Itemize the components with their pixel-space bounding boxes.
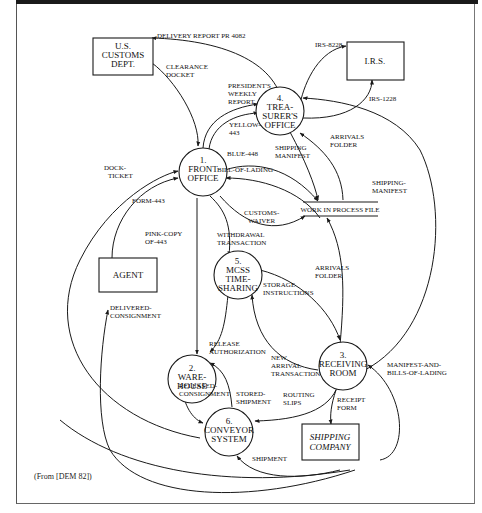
flow-label: CLEARANCE <box>166 63 208 71</box>
flow-label: ROUTING <box>283 391 315 399</box>
flow-label: DOCKET <box>166 71 195 79</box>
process-label-line: OFFICE <box>264 120 296 130</box>
flow-label: SHIPPING <box>275 144 307 152</box>
flow-label: DELIVERED- <box>110 304 152 312</box>
data-store-label: WORK IN PROCESS FILE <box>300 206 379 214</box>
flow-label: PRESIDENT'S <box>228 82 271 90</box>
edge-delivered-consignment <box>100 310 355 493</box>
flow-label: AUTHORIZATION <box>209 348 266 356</box>
flow-label: MANIFEST <box>275 152 311 160</box>
flow-label: WAIVER <box>248 217 276 225</box>
flow-label: STORAGE <box>263 281 295 289</box>
entity-label-line: DEPT. <box>111 59 135 69</box>
process-receiving-room[interactable]: 3. RECEIVING ROOM <box>319 342 368 390</box>
process-label-line: OFFICE <box>187 173 219 183</box>
edge-withdrawal-transaction <box>210 196 230 256</box>
flow-label: REPORT <box>228 98 255 106</box>
entity-label-line: AGENT <box>113 270 144 280</box>
flow-label: BILL-OF-LADING <box>217 166 273 174</box>
flow-label: BILLS-OF-LADING <box>387 369 447 377</box>
flow-label: SHIPPING- <box>372 179 407 187</box>
flow-label: TRANSACTION <box>217 239 266 247</box>
source-note: (From [DEM 82]) <box>34 472 92 481</box>
flow-label: FOLDER <box>330 141 358 149</box>
flow-label: BLUE-448 <box>227 150 259 158</box>
edge-arrivals-folder-bottom <box>327 218 343 345</box>
flow-label: INSTRUCTIONS <box>263 289 314 297</box>
flow-label: DELIVERY REPORT PR 4082 <box>157 32 246 40</box>
flow-label: SLIPS <box>283 399 301 407</box>
data-store-wip[interactable]: WORK IN PROCESS FILE <box>300 202 379 216</box>
flow-label: 443 <box>229 129 240 137</box>
flow-label: OF-443 <box>145 238 167 246</box>
entity-shipping-company[interactable]: SHIPPING COMPANY <box>302 424 359 460</box>
entity-label-line: COMPANY <box>310 442 352 452</box>
edge-shipping-manifest <box>290 132 318 200</box>
entity-agent[interactable]: AGENT <box>99 258 157 292</box>
flow-label: SHIPMENT <box>252 455 288 463</box>
flow-label: MANIFEST <box>372 187 408 195</box>
flow-label: ARRIVAL <box>271 362 301 370</box>
process-conveyor-system[interactable]: 6. CONVEYOR SYSTEM <box>204 408 254 456</box>
flow-label: FORM-443 <box>132 197 165 205</box>
flow-label: STORED- <box>236 390 266 398</box>
flow-label: CUSTOMS- <box>244 209 280 217</box>
edge-form-443 <box>112 178 178 258</box>
process-label-line: ROOM <box>329 368 356 378</box>
flow-label: RELEASED- <box>179 382 218 390</box>
flow-label: IRS-1228 <box>369 95 397 103</box>
flow-label: TICKET <box>108 172 134 180</box>
process-label-line: SYSTEM <box>211 434 247 444</box>
process-label-line: SHARING <box>218 283 259 293</box>
flow-label: WEEKLY <box>228 90 257 98</box>
flow-label: ARRIVALS <box>315 264 349 272</box>
process-mcss-time-sharing[interactable]: 5. MCSS TIME- SHARING <box>214 251 262 299</box>
flow-label: RELEASE <box>209 340 240 348</box>
flow-label: CONSIGNMENT <box>179 390 231 398</box>
flow-label: MANIFEST-AND- <box>387 361 442 369</box>
entity-label-line: SHIPPING <box>310 432 351 442</box>
flow-label: IRS-8228 <box>315 41 343 49</box>
edge-irs-8228 <box>300 46 346 104</box>
flow-label: PINK-COPY <box>145 230 182 238</box>
flow-label: FOLDER <box>315 272 343 280</box>
edge-shipping-manifest-long <box>303 98 436 370</box>
data-flow-diagram: WORK IN PROCESS FILE U.S. CUSTOMS DEPT. … <box>0 0 482 513</box>
flow-label: TRANSACTION <box>271 370 320 378</box>
entity-customs[interactable]: U.S. CUSTOMS DEPT. <box>93 38 153 75</box>
flow-label: NEW <box>271 354 287 362</box>
flow-label: RECEIPT <box>337 396 366 404</box>
flow-label: DOCK- <box>104 164 127 172</box>
flow-label: YELLOW- <box>229 121 261 129</box>
flow-label: CONSIGNMENT <box>110 312 162 320</box>
flow-label: ARRIVALS <box>330 133 364 141</box>
edge-manifest-bills <box>368 365 400 460</box>
entity-irs[interactable]: I.R.S. <box>347 42 404 80</box>
flow-label: WITHDRAWAL <box>217 231 265 239</box>
diagram-page: WORK IN PROCESS FILE U.S. CUSTOMS DEPT. … <box>0 0 482 513</box>
flow-label: FORM <box>337 404 358 412</box>
entity-label-line: I.R.S. <box>365 56 386 66</box>
flow-label: SHIPMENT <box>236 398 272 406</box>
process-treasurers-office[interactable]: 4. TREA- SURER'S OFFICE <box>256 87 304 135</box>
